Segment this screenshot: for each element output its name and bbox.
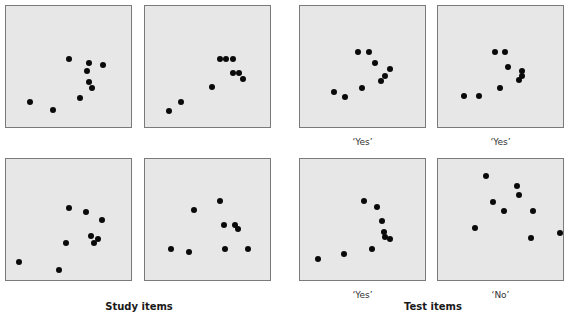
test-panel-2-label: ‘Yes’ [437,137,564,147]
dot-marker [492,49,498,55]
dot-marker [86,60,92,66]
dot-marker [501,208,507,214]
dot-marker [557,230,563,236]
dot-marker [490,199,496,205]
dot-marker [342,94,348,100]
dot-marker [359,85,365,91]
dot-marker [387,66,393,72]
dot-marker [369,246,375,252]
dot-marker [361,198,367,204]
dot-marker [461,93,467,99]
test-panel-4-label: ‘No’ [437,290,564,300]
dot-marker [530,208,536,214]
dot-marker [497,85,503,91]
dot-marker [221,222,227,228]
dot-marker [168,246,174,252]
dot-marker [476,93,482,99]
dot-marker [222,246,228,252]
dot-marker [217,198,223,204]
dot-marker [186,249,192,255]
dot-marker [50,107,56,113]
dot-marker [355,49,361,55]
dot-marker [91,240,97,246]
dot-marker [178,99,184,105]
study-panel-3 [5,158,132,281]
dot-marker [27,99,33,105]
dot-marker [315,256,321,262]
dot-marker [235,226,241,232]
study-items-label: Study items [105,301,173,312]
dot-marker [56,267,62,273]
dot-marker [514,183,520,189]
dot-marker [528,235,534,241]
test-panel-4 [437,158,564,281]
test-panel-1 [299,5,426,128]
dot-marker [63,240,69,246]
dot-marker [483,173,489,179]
dot-marker [84,68,90,74]
dot-marker [378,78,384,84]
dot-marker [505,64,511,70]
dot-marker [372,60,378,66]
dot-marker [516,192,522,198]
dot-marker [374,204,380,210]
dot-marker [341,251,347,257]
dot-marker [331,89,337,95]
dot-marker [66,56,72,62]
study-panel-2 [144,5,271,128]
test-panel-2 [437,5,564,128]
dot-marker [502,49,508,55]
dot-marker [66,205,72,211]
test-panel-3-label: ‘Yes’ [299,290,426,300]
dot-marker [99,217,105,223]
dot-marker [77,95,83,101]
dot-marker [223,56,229,62]
dot-marker [230,56,236,62]
dot-marker [472,225,478,231]
study-panel-4 [144,158,271,281]
dot-marker [516,77,522,83]
dot-marker [166,108,172,114]
dot-marker [366,49,372,55]
dot-marker [191,207,197,213]
dot-marker [236,70,242,76]
dot-marker [245,246,251,252]
dot-marker [100,62,106,68]
dot-marker [379,218,385,224]
dot-marker [387,236,393,242]
dot-marker [89,85,95,91]
dot-marker [83,209,89,215]
dot-marker [240,76,246,82]
test-panel-3 [299,158,426,281]
dot-marker [209,84,215,90]
dot-marker [16,259,22,265]
study-panel-1 [5,5,132,128]
test-items-label: Test items [404,301,462,312]
test-panel-1-label: ‘Yes’ [299,137,426,147]
dot-marker [88,233,94,239]
